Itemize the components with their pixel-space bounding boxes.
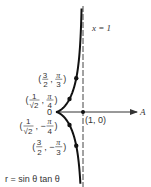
- theta-denominator: 3: [56, 80, 61, 89]
- theta-numerator: π: [56, 71, 61, 80]
- equation-caption: r = sin θ tan θ: [5, 174, 60, 184]
- intercept-point-dot: [81, 110, 85, 114]
- paren-open: (: [38, 74, 41, 84]
- theta-numerator: π: [56, 138, 61, 147]
- theta-denominator: 4: [47, 127, 52, 136]
- theta-numerator: π: [47, 92, 52, 101]
- marked-point-dot: [74, 76, 78, 80]
- r-denominator: 2: [43, 80, 48, 89]
- marked-point-dot: [67, 123, 71, 127]
- comma: ,: [44, 142, 47, 152]
- r-numerator: 3: [37, 138, 42, 147]
- r-numerator: 1: [26, 117, 31, 126]
- marked-point-dot: [67, 97, 71, 101]
- r-numerator: 1: [32, 92, 37, 101]
- curve-upper-branch: [56, 9, 82, 112]
- marked-point-label: (1√2,π4): [25, 92, 57, 111]
- comma: ,: [35, 121, 38, 131]
- asymptote-label: x = 1: [91, 23, 111, 33]
- theta-sign: −: [49, 142, 54, 152]
- marked-point-label: (32,−π3): [32, 138, 66, 157]
- theta-denominator: 4: [47, 101, 52, 110]
- theta-sign: −: [40, 121, 45, 131]
- paren-open: (: [32, 142, 35, 152]
- marked-point-label: (1√2,−π4): [19, 117, 57, 136]
- r-denominator: 2: [37, 148, 42, 157]
- theta-denominator: 3: [56, 148, 61, 157]
- marked-point-label: (32,π3): [38, 71, 66, 90]
- paren-open: (: [25, 95, 28, 105]
- paren-open: (: [19, 121, 22, 131]
- marked-point-dot: [74, 144, 78, 148]
- theta-numerator: π: [47, 117, 52, 126]
- intercept-point-label: (1, 0): [85, 115, 106, 125]
- polar-axis-label: A: [139, 107, 146, 117]
- paren-close: ): [63, 142, 66, 152]
- comma: ,: [50, 74, 53, 84]
- r-numerator: 3: [43, 71, 48, 80]
- r-denominator: √2: [23, 127, 32, 136]
- comma: ,: [41, 95, 44, 105]
- paren-close: ): [54, 121, 57, 131]
- paren-close: ): [54, 95, 57, 105]
- polar-curve-diagram: (1, 0) 0 A x = 1 r = sin θ tan θ (32,π3)…: [0, 0, 151, 187]
- paren-close: ): [63, 74, 66, 84]
- r-denominator: √2: [29, 101, 38, 110]
